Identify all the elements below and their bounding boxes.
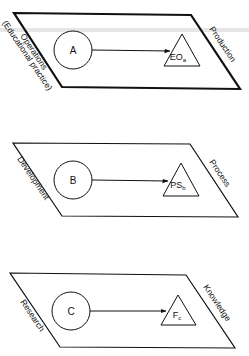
label-knowledge: Knowledge xyxy=(201,283,233,324)
plane-operations: A EOa Operations (Educational practice) … xyxy=(0,13,240,92)
three-plane-diagram: A EOa Operations (Educational practice) … xyxy=(0,0,249,356)
plane-development: B PSb Development Process xyxy=(13,143,238,217)
label-research: Research xyxy=(18,298,47,334)
circle-a-label: A xyxy=(70,45,77,56)
arrow-a-to-eo xyxy=(92,50,170,51)
circle-c-label: C xyxy=(67,306,74,317)
plane-research: C Fc Research Knowledge xyxy=(10,273,235,348)
label-process: Process xyxy=(207,158,232,189)
circle-b-label: B xyxy=(70,175,77,186)
label-development: Development xyxy=(15,155,52,203)
arrow-b-to-ps xyxy=(92,180,168,181)
